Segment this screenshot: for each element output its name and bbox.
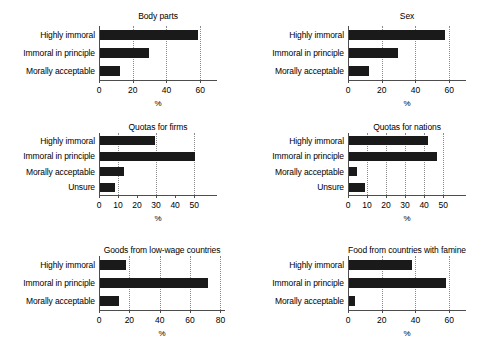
x-tick-label: 30 (151, 200, 160, 210)
bar (100, 152, 195, 161)
gridline (156, 133, 158, 195)
category-label: Highly immoral (289, 30, 344, 40)
x-tick-label: 20 (377, 315, 386, 325)
gridline (160, 256, 162, 310)
category-label: Highly immoral (40, 30, 95, 40)
x-axis-label: % (154, 99, 161, 108)
x-tick (129, 310, 130, 313)
category-label: Unsure (68, 182, 95, 192)
x-axis-label: % (403, 214, 410, 223)
panel-title: Food from countries with famine (278, 245, 495, 255)
x-tick-label: 0 (346, 85, 351, 95)
category-label: Immoral in principle (23, 278, 95, 288)
x-tick (99, 195, 100, 198)
x-tick-label: 80 (216, 315, 225, 325)
panel-title: Body parts (29, 11, 287, 21)
category-axis-labels: Highly immoralImmoral in principleMorall… (254, 26, 344, 80)
y-axis-line (99, 256, 100, 310)
figure-canvas: Body partsHighly immoralImmoral in princ… (0, 0, 495, 363)
gridline (443, 133, 445, 195)
category-axis-labels: Highly immoralImmoral in principleMorall… (5, 26, 95, 80)
gridline (382, 256, 384, 310)
x-tick (348, 310, 349, 313)
x-tick (156, 195, 157, 198)
x-tick-label: 40 (411, 85, 420, 95)
bar (100, 66, 120, 76)
chart-panel: Food from countries with famineHighly im… (0, 0, 495, 363)
x-tick-label: 60 (195, 85, 204, 95)
bar (100, 183, 115, 192)
x-tick-label: 10 (113, 200, 122, 210)
gridline (129, 256, 131, 310)
gridline (382, 26, 384, 80)
x-axis-label: % (403, 329, 410, 338)
gridline (133, 26, 135, 80)
category-label: Immoral in principle (23, 48, 95, 58)
x-tick-label: 40 (419, 200, 428, 210)
x-tick-label: 0 (97, 315, 102, 325)
category-label: Highly immoral (40, 136, 95, 146)
x-tick-label: 60 (444, 85, 453, 95)
category-label: Immoral in principle (272, 48, 344, 58)
x-axis-label: % (154, 214, 161, 223)
x-tick-label: 20 (132, 200, 141, 210)
bar (100, 48, 149, 58)
x-tick (200, 80, 201, 83)
x-tick (133, 80, 134, 83)
bar (349, 48, 398, 58)
x-axis-line (348, 80, 466, 81)
x-tick (118, 195, 119, 198)
bar (100, 278, 208, 288)
x-tick (137, 195, 138, 198)
y-axis-line (99, 133, 100, 195)
gridline (415, 256, 417, 310)
category-label: Immoral in principle (23, 151, 95, 161)
y-axis-line (99, 26, 100, 80)
category-label: Morally acceptable (26, 167, 95, 177)
x-tick-label: 40 (162, 85, 171, 95)
gridline (166, 26, 168, 80)
x-tick-label: 0 (346, 315, 351, 325)
bar (349, 167, 357, 176)
plot-area (348, 133, 466, 195)
chart-panel: SexHighly immoralImmoral in principleMor… (0, 0, 495, 363)
x-tick-label: 0 (97, 85, 102, 95)
x-tick (348, 195, 349, 198)
x-tick-label: 50 (189, 200, 198, 210)
panel-title: Quotas for nations (278, 122, 495, 132)
gridline (449, 256, 451, 310)
panel-title: Goods from low-wage countries (29, 245, 295, 255)
x-tick-label: 0 (97, 200, 102, 210)
x-tick-label: 40 (411, 315, 420, 325)
gridline (200, 26, 202, 80)
y-axis-line (348, 256, 349, 310)
category-label: Morally acceptable (26, 66, 95, 76)
gridline (220, 256, 222, 310)
bar (349, 30, 445, 40)
category-label: Morally acceptable (275, 167, 344, 177)
y-axis-line (348, 26, 349, 80)
y-axis-line (348, 133, 349, 195)
x-tick-label: 30 (400, 200, 409, 210)
plot-area (348, 256, 466, 310)
x-tick (382, 80, 383, 83)
category-label: Morally acceptable (275, 66, 344, 76)
x-tick (382, 310, 383, 313)
x-tick (194, 195, 195, 198)
x-tick (405, 195, 406, 198)
chart-panel: Quotas for firmsHighly immoralImmoral in… (0, 0, 495, 363)
panel-title: Sex (278, 11, 495, 21)
gridline (386, 133, 388, 195)
x-tick-label: 60 (185, 315, 194, 325)
category-axis-labels: Highly immoralImmoral in principleMorall… (254, 256, 344, 310)
x-tick (175, 195, 176, 198)
bar (100, 136, 155, 145)
x-tick-label: 40 (170, 200, 179, 210)
x-tick (367, 195, 368, 198)
x-tick (160, 310, 161, 313)
gridline (405, 133, 407, 195)
x-axis-label: % (158, 329, 165, 338)
gridline (118, 133, 120, 195)
bar (349, 152, 437, 161)
bar (349, 183, 365, 192)
